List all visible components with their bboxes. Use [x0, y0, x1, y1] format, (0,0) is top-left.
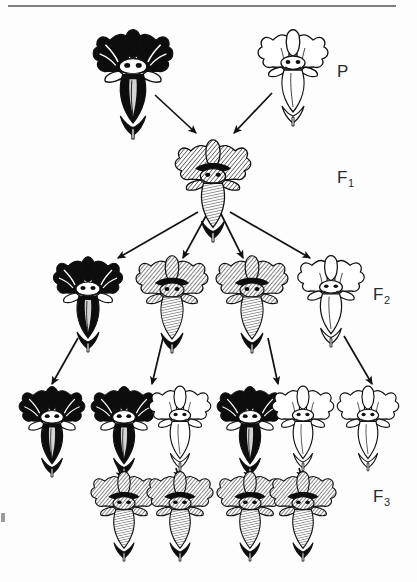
flower-f2-intermediate-1 [136, 256, 208, 353]
flower-f3-white-1 [149, 386, 210, 471]
generation-row-p [93, 29, 328, 139]
flower-f2-white [298, 256, 364, 347]
generation-label-f1: F1 [337, 168, 354, 189]
generation-label-f3: F3 [373, 487, 390, 508]
arrow-f2-4-to-f3 [344, 336, 372, 384]
arrow-f1-to-f2-2 [183, 214, 207, 258]
pedigree-canvas [0, 0, 417, 582]
arrow-f1-to-f2-4 [230, 212, 310, 258]
generation-label-f1-text: F [337, 168, 348, 187]
arrow-f1-to-f2-3 [221, 214, 243, 258]
arrow-p-dark-to-f1 [155, 95, 196, 133]
arrow-p-white-to-f1 [234, 93, 272, 133]
flower-p-dark [93, 29, 173, 139]
arrow-f2-3-to-f3 [268, 338, 278, 384]
flower-p-white [258, 30, 328, 126]
generation-label-f1-subscript: 1 [348, 177, 354, 189]
generation-row-f3 [19, 386, 399, 561]
generation-label-p: P [337, 62, 349, 82]
flower-f3-white-3 [337, 386, 398, 471]
arrow-f2-2-to-f3 [152, 338, 163, 384]
generation-label-f2-subscript: 2 [384, 294, 390, 306]
generation-row-f2 [53, 256, 364, 353]
flower-f3-intermediate-4 [270, 472, 336, 561]
generation-label-f2: F2 [373, 285, 390, 306]
generation-label-p-text: P [337, 62, 349, 81]
generation-label-f3-subscript: 3 [384, 496, 390, 508]
flower-f2-intermediate-2 [216, 256, 288, 353]
flower-f3-dark-2 [91, 387, 157, 477]
flower-f3-dark-1 [19, 387, 85, 477]
flower-f3-dark-3 [217, 387, 283, 477]
page-edge-mark [1, 513, 5, 522]
generation-label-f2-text: F [373, 285, 384, 304]
genetics-pedigree-figure: P F1 F2 F3 [0, 0, 417, 582]
flower-f3-intermediate-2 [147, 472, 213, 561]
generation-label-f3-text: F [373, 487, 384, 506]
flower-f1-intermediate [175, 140, 250, 242]
flower-layer [19, 29, 399, 561]
flower-f3-white-2 [272, 386, 333, 471]
flower-f2-dark [53, 257, 122, 352]
arrow-f2-1-to-f3 [52, 338, 78, 384]
flower-f3-intermediate-1 [91, 472, 157, 561]
generation-row-f1 [175, 140, 250, 242]
